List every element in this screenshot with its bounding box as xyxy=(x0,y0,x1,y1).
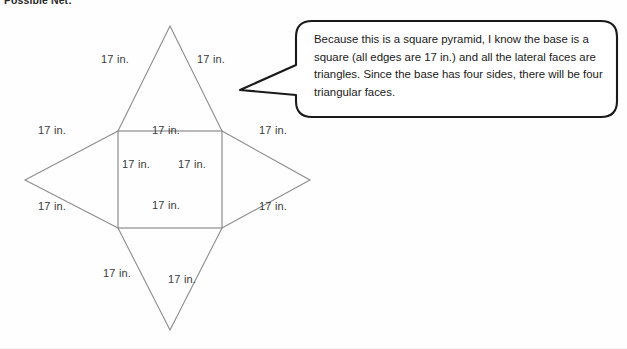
net-triangle-left xyxy=(25,131,118,228)
net-triangle-top xyxy=(118,26,222,131)
dimension-label-top-right-slant: 17 in. xyxy=(197,53,225,65)
dimension-label-square-right-edge: 17 in. xyxy=(178,158,206,170)
net-base-square xyxy=(118,131,222,228)
dimension-label-right-upper-slant: 17 in. xyxy=(259,124,287,136)
dimension-label-square-top-edge: 17 in. xyxy=(152,124,180,136)
callout-text: Because this is a square pyramid, I know… xyxy=(314,31,606,101)
dimension-label-square-bottom-edge: 17 in. xyxy=(152,199,180,211)
dimension-label-bottom-right-slant: 17 in. xyxy=(168,273,196,285)
dimension-label-top-left-slant: 17 in. xyxy=(101,53,129,65)
dimension-label-bottom-left-slant: 17 in. xyxy=(103,267,131,279)
dimension-label-right-lower-slant: 17 in. xyxy=(259,200,287,212)
thought-callout: Because this is a square pyramid, I know… xyxy=(238,18,620,120)
worksheet-page: Possible Net: 17 in. 17 in. 17 in. 17 in… xyxy=(0,0,627,349)
net-triangle-right xyxy=(222,131,310,228)
dimension-label-square-left-edge: 17 in. xyxy=(122,158,150,170)
dimension-label-left-lower-slant: 17 in. xyxy=(38,200,66,212)
dimension-label-left-upper-slant: 17 in. xyxy=(38,124,66,136)
